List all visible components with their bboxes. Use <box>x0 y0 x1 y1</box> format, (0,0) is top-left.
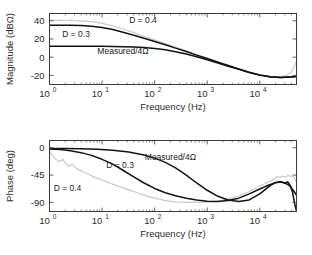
x-tick-label: 104 <box>249 86 266 99</box>
svg-text:2: 2 <box>158 86 162 93</box>
magnitude-x-axis-label: Frequency (Hz) <box>140 101 205 112</box>
curve-annotation: D = 0.4 <box>129 15 157 25</box>
phase-annotations: Measured/4ΩD = 0.3D = 0.4 <box>54 152 196 194</box>
phase-y-axis-label: Phase (deg) <box>4 150 15 202</box>
curve-annotation: Measured/4Ω <box>145 152 196 162</box>
x-tick-label: 104 <box>249 213 266 226</box>
curve-annotation: D = 0.4 <box>54 183 82 193</box>
x-tick-label: 100 <box>39 213 56 226</box>
y-tick-label: 0 <box>39 52 44 63</box>
y-tick-label: -20 <box>31 70 45 81</box>
svg-text:0: 0 <box>53 86 57 93</box>
svg-text:1: 1 <box>105 213 109 220</box>
magnitude-y-axis-label: Magnitude (dBΩ) <box>4 13 15 85</box>
svg-text:10: 10 <box>92 215 103 226</box>
svg-text:4: 4 <box>263 213 267 220</box>
x-tick-label: 102 <box>144 86 161 99</box>
svg-text:0: 0 <box>53 213 57 220</box>
phase-y-tick-labels: 0-45-90 <box>31 142 45 208</box>
y-tick-label: 40 <box>34 15 45 26</box>
y-tick-label: -90 <box>31 197 45 208</box>
phase-x-tick-labels: 100101102103104 <box>39 213 267 226</box>
y-tick-label: -45 <box>31 169 45 180</box>
x-tick-label: 103 <box>197 86 214 99</box>
bode-plot-figure: 40200-20 100101102103104 Magnitude (dBΩ)… <box>0 0 312 255</box>
x-tick-label: 101 <box>92 213 109 226</box>
svg-text:10: 10 <box>144 88 155 99</box>
svg-text:10: 10 <box>39 215 50 226</box>
svg-text:3: 3 <box>210 86 214 93</box>
svg-text:10: 10 <box>249 215 260 226</box>
curve-annotation: Measured/4Ω <box>97 46 148 56</box>
y-tick-label: 0 <box>39 142 44 153</box>
magnitude-ticks <box>50 14 297 85</box>
svg-text:2: 2 <box>158 213 162 220</box>
x-tick-label: 101 <box>92 86 109 99</box>
magnitude-y-tick-labels: 40200-20 <box>31 15 45 81</box>
svg-text:10: 10 <box>249 88 260 99</box>
svg-text:4: 4 <box>263 86 267 93</box>
x-tick-label: 102 <box>144 213 161 226</box>
svg-text:1: 1 <box>105 86 109 93</box>
magnitude-curve-d03 <box>50 46 297 77</box>
magnitude-x-tick-labels: 100101102103104 <box>39 86 267 99</box>
phase-panel: 0-45-90 100101102103104 Phase (deg) Freq… <box>4 141 297 240</box>
curve-annotation: D = 0.3 <box>106 160 134 170</box>
magnitude-panel: 40200-20 100101102103104 Magnitude (dBΩ)… <box>4 13 297 112</box>
x-tick-label: 100 <box>39 86 56 99</box>
phase-x-axis-label: Frequency (Hz) <box>140 228 205 239</box>
magnitude-axes-box <box>50 14 297 85</box>
bode-plot-svg: 40200-20 100101102103104 Magnitude (dBΩ)… <box>0 0 312 255</box>
curve-annotation: D = 0.3 <box>62 29 90 39</box>
svg-text:10: 10 <box>92 88 103 99</box>
svg-text:10: 10 <box>197 88 208 99</box>
svg-text:10: 10 <box>39 88 50 99</box>
svg-text:10: 10 <box>144 215 155 226</box>
svg-text:3: 3 <box>210 213 214 220</box>
svg-text:10: 10 <box>197 215 208 226</box>
y-tick-label: 20 <box>34 33 45 44</box>
x-tick-label: 103 <box>197 213 214 226</box>
